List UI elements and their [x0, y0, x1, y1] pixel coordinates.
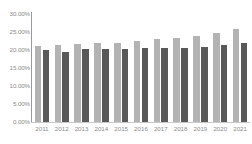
bar-series-light-2017 — [154, 39, 161, 122]
x-tick-label: 2019 — [191, 125, 211, 133]
bar-series-dark-2018 — [181, 48, 188, 122]
bar-series-dark-2011 — [43, 50, 50, 122]
bar-series-dark-2014 — [102, 49, 109, 122]
bar-chart: 0.00%5.00%10.00%15.00%20.00%25.00%30.00%… — [0, 0, 252, 144]
y-axis-tick-labels: 0.00%5.00%10.00%15.00%20.00%25.00%30.00% — [0, 0, 30, 144]
bar-series-light-2020 — [213, 33, 220, 122]
x-tick-label: 2020 — [210, 125, 230, 133]
x-tick-label: 2012 — [52, 125, 72, 133]
x-axis-line — [31, 122, 250, 123]
y-tick-label: 15.00% — [0, 65, 30, 71]
bar-group — [114, 14, 128, 122]
y-tick-label: 5.00% — [0, 101, 30, 107]
y-tick-label: 10.00% — [0, 83, 30, 89]
bar-series-dark-2017 — [161, 48, 168, 122]
bar-series-light-2015 — [114, 43, 121, 122]
bar-series-light-2016 — [134, 41, 141, 122]
bar-group — [233, 14, 247, 122]
bar-group — [173, 14, 187, 122]
bar-series-light-2011 — [35, 46, 42, 122]
x-tick-label: 2018 — [171, 125, 191, 133]
bar-series-light-2021 — [233, 29, 240, 122]
x-tick-label: 2013 — [72, 125, 92, 133]
bar-group — [55, 14, 69, 122]
bar-group — [154, 14, 168, 122]
y-tick-label: 30.00% — [0, 11, 30, 17]
bar-series-light-2013 — [74, 44, 81, 122]
x-axis-tick-labels: 2011201220132014201520162017201820192020… — [32, 125, 250, 137]
bar-group — [35, 14, 49, 122]
bar-series-dark-2015 — [122, 49, 129, 122]
bar-series-dark-2019 — [201, 47, 208, 122]
x-tick-label: 2016 — [131, 125, 151, 133]
x-tick-label: 2021 — [230, 125, 250, 133]
bar-series-dark-2020 — [221, 45, 228, 122]
x-tick-label: 2017 — [151, 125, 171, 133]
y-tick-label: 25.00% — [0, 29, 30, 35]
bar-series-dark-2013 — [82, 49, 89, 122]
bar-series-light-2012 — [55, 45, 62, 122]
y-tick-label: 0.00% — [0, 119, 30, 125]
bar-group — [213, 14, 227, 122]
x-tick-label: 2015 — [111, 125, 131, 133]
bar-group — [74, 14, 88, 122]
x-tick-label: 2014 — [91, 125, 111, 133]
bar-group — [94, 14, 108, 122]
bar-series-light-2014 — [94, 43, 101, 122]
bar-series-dark-2021 — [241, 43, 248, 122]
bar-series-light-2019 — [193, 36, 200, 122]
bar-series-dark-2016 — [142, 48, 149, 122]
x-tick-label: 2011 — [32, 125, 52, 133]
bar-series-dark-2012 — [62, 52, 69, 122]
bar-group — [134, 14, 148, 122]
bar-series-light-2018 — [173, 38, 180, 122]
y-tick-label: 20.00% — [0, 47, 30, 53]
plot-area — [32, 14, 250, 122]
bar-group — [193, 14, 207, 122]
